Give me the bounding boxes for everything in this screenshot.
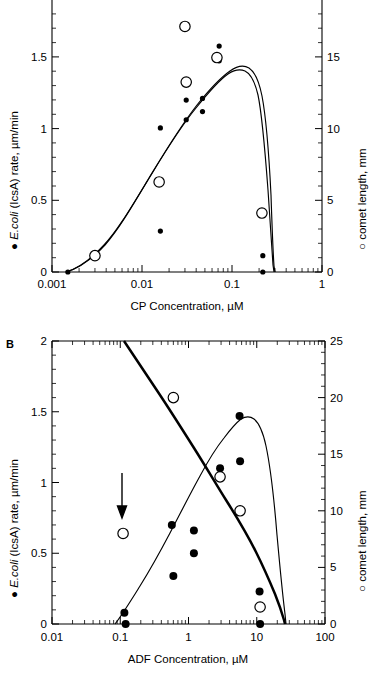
panel-a-data-points	[65, 21, 267, 274]
panel-a-right-marker: ○	[356, 243, 368, 250]
data-point-open-circle	[235, 506, 245, 516]
panel-a-xtick-1: 0.01	[131, 278, 153, 290]
data-point-open-circle	[168, 392, 178, 402]
panel-a-rate-fit-curve	[66, 70, 274, 272]
panel-b-right-marker: ○	[356, 585, 368, 592]
panel-b-ytick-0: 0	[41, 618, 47, 630]
panel-a-comet-fit-curve	[66, 66, 275, 272]
panel-b-data-points	[118, 392, 265, 628]
panel-a-ytick-2: 1	[41, 123, 47, 135]
svg-text:● E.coli (IcsA) rate, µm/min: ● E.coli (IcsA) rate, µm/min	[8, 459, 20, 598]
data-point-filled-circle	[200, 96, 205, 101]
arrow-annotation-icon	[118, 473, 127, 518]
panel-a-right-title-text: comet length, mm	[356, 148, 368, 243]
panel-a-xaxis-title: CP Concentration, µM	[130, 300, 243, 312]
panel-b-xtick-4: 100	[315, 631, 334, 643]
panel-b-ytick-3: 1.5	[31, 406, 47, 418]
data-point-filled-circle	[256, 620, 264, 628]
data-point-filled-circle	[184, 98, 189, 103]
panel-b-letter: B	[6, 338, 14, 350]
data-point-open-circle	[212, 52, 222, 62]
panel-b: B ● E.coli (IcsA) rate, µm/min ○ comet l…	[0, 330, 376, 677]
panel-a-xtick-3: 1	[319, 278, 325, 290]
data-point-filled-circle	[169, 572, 177, 580]
data-point-filled-circle	[217, 43, 222, 48]
panel-b-y2tick-4: 20	[330, 392, 343, 404]
panel-b-xtick-1: 0.1	[112, 631, 128, 643]
data-point-open-circle	[215, 472, 225, 482]
data-point-filled-circle	[65, 269, 70, 274]
data-point-open-circle	[257, 208, 267, 218]
data-point-open-circle	[255, 602, 265, 612]
panel-b-xaxis-title: ADF Concentration, µM	[128, 653, 248, 665]
data-point-open-circle	[90, 250, 100, 260]
data-point-open-circle	[181, 77, 191, 87]
panel-a-left-marker: ●	[8, 243, 20, 250]
panel-a-left-axis-title: ● E.coli (IcsA) rate, µm/min	[8, 111, 20, 250]
panel-b-xtick-0: 0.01	[41, 631, 63, 643]
svg-text:○ comet length, mm: ○ comet length, mm	[356, 148, 368, 250]
panel-b-left-title-rest: (IcsA) rate, µm/min	[8, 459, 20, 560]
panel-a: ● E.coli (IcsA) rate, µm/min ○ comet len…	[0, 0, 376, 330]
panel-b-y2tick-1: 5	[330, 561, 336, 573]
panel-b-ytick-4: 2	[41, 335, 47, 347]
data-point-filled-circle	[236, 412, 244, 420]
panel-b-y2tick-3: 15	[330, 448, 343, 460]
panel-b-left-marker: ●	[8, 591, 20, 598]
panel-a-right-ticks: 0 5 10 15	[315, 14, 340, 278]
panel-a-left-title-rest: (IcsA) rate, µm/min	[8, 111, 20, 212]
panel-a-y2tick-3: 15	[327, 51, 340, 63]
panel-b-ytick-2: 1	[41, 477, 47, 489]
svg-text:● E.coli (IcsA) rate, µm/min: ● E.coli (IcsA) rate, µm/min	[8, 111, 20, 250]
panel-b-y2tick-2: 10	[330, 505, 343, 517]
panel-a-xtick-labels: 0.001 0.01 0.1 1	[38, 278, 326, 290]
panel-b-y2tick-5: 25	[330, 335, 343, 347]
panel-b-left-ticks: 0 0.5 1 1.5 2	[31, 335, 59, 630]
panel-b-left-axis-title: ● E.coli (IcsA) rate, µm/min	[8, 459, 20, 598]
panel-a-right-axis-title: ○ comet length, mm	[356, 148, 368, 250]
panel-a-left-title-italic: E.coli	[8, 211, 20, 240]
data-point-filled-circle	[158, 125, 163, 130]
data-point-filled-circle	[120, 609, 128, 617]
panel-b-right-ticks: 0 5 10 15 20 25	[318, 335, 343, 630]
panel-b-right-title-text: comet length, mm	[356, 490, 368, 585]
panel-a-ytick-0: 0	[41, 266, 47, 278]
panel-a-plot: ● E.coli (IcsA) rate, µm/min ○ comet len…	[0, 0, 376, 330]
data-point-filled-circle	[190, 527, 198, 535]
data-point-filled-circle	[260, 253, 265, 258]
data-point-open-circle	[180, 21, 190, 31]
panel-b-ytick-1: 0.5	[31, 547, 47, 559]
data-point-filled-circle	[184, 117, 189, 122]
panel-a-ytick-3: 1.5	[31, 51, 47, 63]
panel-a-y2tick-1: 5	[327, 194, 333, 206]
data-point-filled-circle	[200, 109, 205, 114]
data-point-filled-circle	[260, 269, 265, 274]
panel-b-xtick-labels: 0.01 0.1 1 10 100	[41, 631, 335, 643]
panel-b-plot: B ● E.coli (IcsA) rate, µm/min ○ comet l…	[0, 330, 376, 677]
panel-b-y2tick-0: 0	[330, 618, 336, 630]
data-point-open-circle	[118, 528, 128, 538]
data-point-filled-circle	[122, 620, 130, 628]
data-point-filled-circle	[236, 457, 244, 465]
panel-a-ytick-1: 0.5	[31, 194, 47, 206]
data-point-filled-circle	[158, 228, 163, 233]
panel-a-xtick-2: 0.1	[224, 278, 240, 290]
svg-text:○ comet length, mm: ○ comet length, mm	[356, 490, 368, 592]
data-point-filled-circle	[256, 587, 264, 595]
data-point-filled-circle	[190, 549, 198, 557]
panel-b-right-axis-title: ○ comet length, mm	[356, 490, 368, 592]
data-point-filled-circle	[168, 521, 176, 529]
panel-a-xtick-0: 0.001	[38, 278, 67, 290]
panel-b-x-ticks	[52, 341, 325, 624]
panel-b-xtick-3: 10	[250, 631, 263, 643]
panel-a-y2tick-0: 0	[327, 266, 333, 278]
panel-b-xtick-2: 1	[185, 631, 191, 643]
panel-a-y2tick-2: 10	[327, 123, 340, 135]
panel-b-comet-fit-curve	[124, 341, 285, 624]
panel-b-left-title-italic: E.coli	[8, 559, 20, 588]
panel-a-left-ticks: 0 0.5 1 1.5	[31, 14, 59, 278]
figure-container: ● E.coli (IcsA) rate, µm/min ○ comet len…	[0, 0, 376, 677]
panel-a-x-ticks	[52, 265, 322, 272]
data-point-open-circle	[154, 177, 164, 187]
